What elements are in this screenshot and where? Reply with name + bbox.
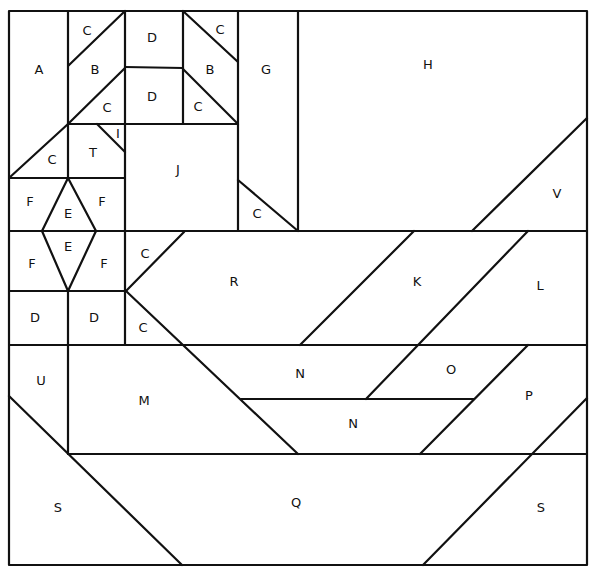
piece-label-d: D [89,310,99,325]
piece-label-v: V [553,186,562,201]
seam-line [183,11,238,62]
piece-label-e: E [64,206,72,221]
seam-line [68,11,125,66]
piece-label-j: J [175,162,180,177]
piece-label-f: F [100,256,107,271]
piece-label-a: A [35,62,44,77]
piece-label-c: C [193,99,202,114]
piece-label-h: H [423,57,433,72]
seam-line [423,398,587,565]
piece-label-q: Q [291,495,301,510]
seam-line [300,231,414,345]
piece-label-k: K [413,274,422,289]
piece-label-d: D [147,30,157,45]
quilt-diagram: ACBCDDCBCGHITCJCVFEFFEFCRKLDDCUMNOPNSQS [0,0,599,577]
piece-label-b: B [206,62,215,77]
seam-line [126,291,298,454]
piece-label-b: B [91,62,100,77]
piece-label-c: C [215,22,224,37]
seam-line [97,124,125,152]
piece-label-s: S [54,500,62,515]
piece-label-u: U [36,373,46,388]
seam-line [68,178,96,231]
seam-line [183,69,238,124]
piece-label-d: D [30,310,40,325]
piece-label-f: F [28,256,35,271]
piece-label-c: C [47,152,56,167]
seam-line [125,67,183,68]
piece-label-e: E [64,239,72,254]
piece-label-l: L [536,278,544,293]
piece-label-f: F [98,194,105,209]
piece-label-i: I [116,126,120,141]
seam-line [42,178,68,231]
piece-label-c: C [252,206,261,221]
piece-label-m: M [138,393,149,408]
piece-label-p: P [525,388,533,403]
piece-label-r: R [229,274,238,289]
piece-label-n: N [295,366,305,381]
piece-label-c: C [140,246,149,261]
piece-labels: ACBCDDCBCGHITCJCVFEFFEFCRKLDDCUMNOPNSQS [26,22,561,515]
seam-line [9,396,182,565]
piece-label-t: T [88,145,97,160]
seam-line [472,118,587,231]
seam-line [126,232,184,291]
piece-label-f: F [26,194,33,209]
piece-label-c: C [102,100,111,115]
piece-label-c: C [82,23,91,38]
piece-label-c: C [138,320,147,335]
seam-line [68,231,96,291]
seam-line [9,124,68,178]
piece-label-g: G [261,62,271,77]
piece-label-s: S [537,500,545,515]
piece-label-o: O [446,362,456,377]
seam-lines [9,11,587,565]
piece-label-d: D [147,89,157,104]
piece-label-n: N [348,416,358,431]
seam-line [238,180,298,231]
